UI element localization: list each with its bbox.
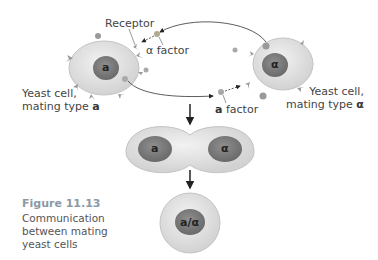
diploid-nucleus-label: a/α bbox=[180, 216, 199, 229]
fusing-cells bbox=[126, 127, 254, 173]
caption-line-3: yeast cells bbox=[22, 238, 108, 251]
fusing-nucleus-label-alpha: α bbox=[221, 142, 229, 155]
figure-number: Figure 11.13 bbox=[22, 197, 101, 210]
figure-caption: Communication between mating yeast cells bbox=[22, 212, 108, 251]
cell-alpha-label-line2: mating type α bbox=[286, 98, 364, 111]
cell-a-type-prefix: mating type bbox=[22, 100, 92, 113]
nucleus-label-alpha: α bbox=[271, 58, 279, 71]
cell-a-label-line1: Yeast cell, bbox=[22, 87, 100, 100]
a-factor-path bbox=[128, 81, 213, 97]
cell-alpha-label: Yeast cell, mating type α bbox=[302, 85, 364, 111]
receptor-label: Receptor bbox=[105, 17, 154, 30]
caption-line-1: Communication bbox=[22, 212, 108, 225]
caption-line-2: between mating bbox=[22, 225, 108, 238]
a-factor-suffix: factor bbox=[222, 103, 258, 116]
yeast-mating-diagram: a α a α a/α Receptor α factor a factor Y… bbox=[0, 0, 378, 260]
nucleus-label-a: a bbox=[102, 61, 109, 74]
cell-a-label: Yeast cell, mating type a bbox=[22, 87, 100, 113]
alpha-factor-label: α factor bbox=[146, 44, 189, 57]
a-factor-label: a factor bbox=[215, 103, 258, 116]
cell-a-type: a bbox=[92, 100, 99, 113]
alpha-factor-path bbox=[160, 22, 266, 42]
cell-alpha-type-prefix: mating type bbox=[286, 98, 356, 111]
fusing-nucleus-label-a: a bbox=[151, 142, 158, 155]
cell-a-label-line2: mating type a bbox=[22, 100, 100, 113]
cell-alpha-label-line1: Yeast cell, bbox=[302, 85, 364, 98]
cell-alpha-type: α bbox=[356, 98, 364, 111]
